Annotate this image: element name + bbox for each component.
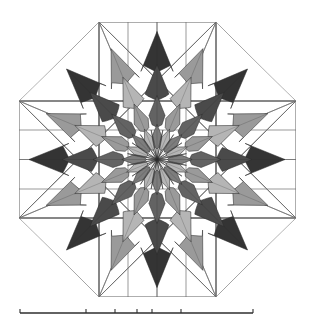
construction-guides-overlay xyxy=(29,32,285,288)
figure-root xyxy=(0,0,314,319)
octagon-star-figure xyxy=(0,0,314,319)
